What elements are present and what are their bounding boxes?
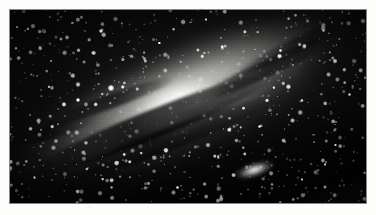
- bright-star-group: [10, 10, 366, 203]
- galaxy-central-bulge: [110, 52, 244, 154]
- bright-star-right-top: [279, 49, 281, 51]
- bright-star-far-right: [348, 93, 351, 96]
- bright-star-upper-left: [99, 29, 103, 33]
- plate-vignette: [10, 10, 366, 203]
- galaxy-lower-shadow: [10, 63, 366, 203]
- galaxy-disc: [10, 10, 366, 203]
- bright-star-left-top: [50, 60, 52, 62]
- bright-star-upper-mid: [158, 42, 160, 44]
- dust-lane-outer-arm: [228, 10, 366, 84]
- bright-star-top-mid: [205, 18, 208, 21]
- starfield-fine: [10, 10, 366, 203]
- galaxy-group: [10, 10, 366, 203]
- starfield-mid: [10, 10, 366, 203]
- dust-lane-far-left: [10, 108, 103, 151]
- galaxy-outer-halo: [10, 10, 366, 203]
- bright-star-lower-mid: [176, 186, 179, 189]
- night-sky-background: [10, 10, 366, 203]
- companion-galaxy: [231, 156, 277, 185]
- bright-star-right-mid: [258, 125, 261, 128]
- bright-star-left-disc: [108, 85, 114, 91]
- figure-caption: [10, 205, 366, 214]
- andromeda-galaxy-photograph: [10, 10, 366, 203]
- galactic-nucleus: [170, 93, 202, 110]
- bright-star-right-low: [301, 178, 304, 181]
- bright-star-lower-left: [33, 176, 36, 179]
- bright-star-upper-right: [322, 29, 325, 32]
- photographic-grain: [10, 10, 366, 203]
- bright-star-left-lower: [76, 98, 80, 102]
- bright-star-mid-right: [334, 144, 337, 147]
- page-canvas: [0, 0, 376, 215]
- bright-star-bottom-right: [324, 163, 326, 165]
- dust-lane-upper-right: [185, 25, 347, 113]
- dust-lane-inner-left: [40, 71, 178, 132]
